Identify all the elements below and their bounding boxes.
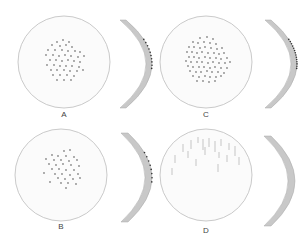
panel-label-b: B [51, 222, 71, 231]
dot [199, 37, 201, 39]
dot [203, 41, 205, 43]
dot [223, 72, 225, 74]
mark [290, 41, 292, 43]
mark [291, 43, 293, 45]
dot [61, 60, 63, 62]
dot [217, 71, 219, 73]
dot [52, 54, 54, 56]
dot [58, 55, 60, 57]
dot [224, 62, 226, 64]
dot [207, 62, 209, 64]
dot [49, 181, 51, 183]
dot [52, 74, 54, 76]
dot [204, 75, 206, 77]
mark [295, 52, 297, 54]
mark [150, 55, 152, 57]
dot [204, 56, 206, 58]
dot [226, 67, 228, 69]
dot [56, 69, 58, 71]
mark [146, 156, 148, 158]
dot [65, 187, 67, 189]
dot [199, 47, 201, 49]
dot [65, 65, 67, 67]
dot [73, 169, 75, 171]
cross-section-arc [265, 20, 297, 108]
dot [207, 52, 209, 54]
dot [189, 70, 191, 72]
dot [83, 55, 85, 57]
dot [192, 66, 194, 68]
dot [201, 51, 203, 53]
dot [62, 39, 64, 41]
dot [79, 61, 81, 63]
dot [66, 74, 68, 76]
dot [226, 57, 228, 59]
dot [193, 46, 195, 48]
dot [67, 50, 69, 52]
dot [65, 155, 67, 157]
dot [186, 51, 188, 53]
panel-label-a: A [54, 110, 74, 119]
mark [296, 63, 298, 65]
dot [77, 56, 79, 58]
mark [151, 173, 153, 175]
figure-canvas [0, 0, 299, 248]
disc-face-view [160, 16, 252, 108]
dot [56, 79, 58, 81]
dot [196, 52, 198, 54]
dot [82, 69, 84, 71]
dot [78, 66, 80, 68]
dot [59, 74, 61, 76]
dot [49, 59, 51, 61]
mark [295, 54, 297, 56]
dot [58, 168, 60, 170]
dot [54, 173, 56, 175]
dot [209, 42, 211, 44]
dot [201, 61, 203, 63]
dot [63, 150, 65, 152]
dot [192, 75, 194, 77]
dot [79, 51, 81, 53]
dot [67, 182, 69, 184]
dot [198, 76, 200, 78]
dot [188, 56, 190, 58]
dot [69, 70, 71, 72]
dot [73, 60, 75, 62]
dot [70, 164, 72, 166]
dot [59, 45, 61, 47]
dot [211, 71, 213, 73]
dot [214, 66, 216, 68]
dot [79, 177, 81, 179]
panel-c [160, 16, 298, 108]
dot [63, 69, 65, 71]
mark [148, 160, 150, 162]
dot [185, 60, 187, 62]
dot [188, 46, 190, 48]
dot [55, 164, 57, 166]
dot [60, 182, 62, 184]
dot [218, 62, 220, 64]
dot [223, 52, 225, 54]
dot [191, 51, 193, 53]
dot [209, 67, 211, 69]
mark [148, 48, 150, 50]
dot [198, 57, 200, 59]
dot [78, 165, 80, 167]
dot [75, 183, 77, 185]
dot [215, 43, 217, 45]
dot [56, 41, 58, 43]
dot [53, 64, 55, 66]
panel-d [160, 129, 295, 226]
dot [218, 53, 220, 55]
panel-a [18, 16, 153, 108]
dot [45, 158, 47, 160]
mark [151, 58, 153, 60]
mark [293, 48, 295, 50]
dot [59, 65, 61, 67]
dot [190, 61, 192, 63]
mark [151, 61, 153, 63]
dot [45, 54, 47, 56]
mark [150, 169, 152, 171]
dot [202, 80, 204, 82]
disc-face-view [160, 129, 252, 221]
